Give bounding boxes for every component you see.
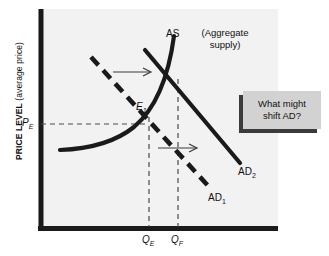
tick-pe-text: P xyxy=(22,117,29,128)
callout-box: What mightshift AD? xyxy=(243,91,321,129)
shift-arrow-upper xyxy=(113,68,151,76)
callout-text: What mightshift AD? xyxy=(258,98,306,122)
callout-line-1: What might xyxy=(258,98,306,109)
y-axis-title-bold: PRICE LEVEL xyxy=(14,103,24,160)
y-axis-title-light: (average price) xyxy=(14,42,24,103)
x-tick-label-qf: QF xyxy=(171,234,183,247)
equilibrium-point-label: E1 xyxy=(136,101,147,114)
y-axis-title: PRICE LEVEL (average price) xyxy=(14,21,24,181)
x-tick-label-qe: QE xyxy=(142,234,154,247)
tick-qf-sub: F xyxy=(179,240,183,247)
ad1-label-sub: 1 xyxy=(222,198,226,205)
ad1-label-text: AD xyxy=(208,192,222,203)
e1-label-text: E xyxy=(136,101,143,112)
as-curve-description: (Aggregate supply) xyxy=(189,27,261,51)
y-tick-label-pe: PE xyxy=(22,117,33,130)
ad2-curve-label: AD2 xyxy=(238,166,256,179)
ad2-label-text: AD xyxy=(238,166,252,177)
ad1-curve-label: AD1 xyxy=(208,192,226,205)
tick-qe-sub: E xyxy=(150,240,155,247)
ad1-curve xyxy=(91,57,210,188)
tick-pe-sub: E xyxy=(29,123,34,130)
as-curve-label: AS xyxy=(166,28,179,39)
callout-line-2: shift AD? xyxy=(263,110,301,121)
chart-root: PRICE LEVEL (average price) PE QE QF AS … xyxy=(0,0,329,256)
ad2-label-sub: 2 xyxy=(252,172,256,179)
tick-qe-text: Q xyxy=(142,234,150,245)
e1-label-sub: 1 xyxy=(143,107,147,114)
tick-qf-text: Q xyxy=(171,234,179,245)
